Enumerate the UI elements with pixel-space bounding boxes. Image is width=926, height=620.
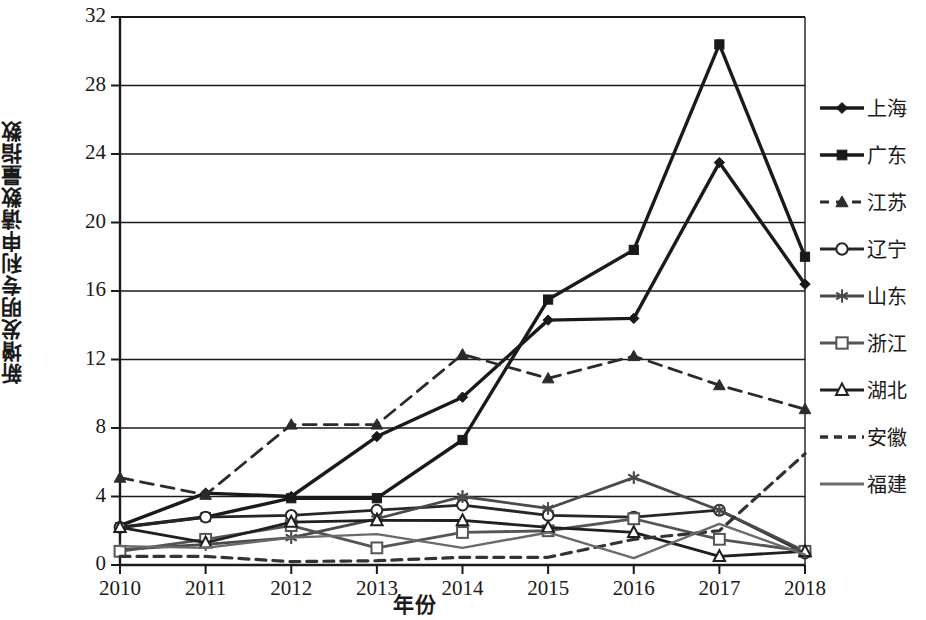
legend-swatch-line-icon	[818, 427, 866, 447]
y-axis-title: 新增发明专利申请数量指数	[2, 120, 36, 384]
legend-item-辽宁[interactable]: 辽宁	[818, 225, 926, 272]
legend-item-上海[interactable]: 上海	[818, 84, 926, 131]
y-tick-label: 4	[62, 483, 106, 508]
legend-item-广东[interactable]: 广东	[818, 131, 926, 178]
x-tick-label: 2011	[161, 576, 251, 601]
x-tick-label: 2017	[674, 576, 764, 601]
data-point-filled-triangle	[457, 349, 469, 359]
y-tick-label: 12	[62, 346, 106, 371]
axis-ticks	[111, 17, 805, 574]
plot-area	[0, 0, 926, 620]
chart-figure: 新增发明专利申请数量指数 年份 048121620242832 20102011…	[0, 0, 926, 620]
data-point-filled-square	[372, 494, 381, 503]
data-point-open-square	[836, 337, 847, 348]
legend-swatch-open-circle-icon	[818, 239, 866, 259]
x-tick-label: 2012	[246, 576, 336, 601]
series-line	[120, 44, 805, 527]
data-point-filled-diamond	[837, 102, 848, 113]
legend-item-福建[interactable]: 福建	[818, 460, 926, 507]
series-2	[114, 349, 811, 500]
data-point-filled-triangle	[628, 350, 640, 360]
series-line	[120, 163, 805, 526]
legend-item-江苏[interactable]: 江苏	[818, 178, 926, 225]
legend-item-山东[interactable]: 山东	[818, 272, 926, 319]
y-tick-label: 28	[62, 72, 106, 97]
y-tick-label: 32	[62, 3, 106, 28]
legend-item-浙江[interactable]: 浙江	[818, 319, 926, 366]
data-point-filled-square	[837, 150, 847, 160]
data-point-filled-square	[715, 40, 724, 49]
legend-label: 安徽	[866, 422, 907, 451]
legend-item-湖北[interactable]: 湖北	[818, 366, 926, 413]
data-point-open-square	[371, 542, 382, 553]
legend-swatch-asterisk-icon	[818, 286, 866, 306]
x-tick-label: 2013	[332, 576, 422, 601]
x-tick-label: 2015	[503, 576, 593, 601]
y-tick-label: 0	[62, 551, 106, 576]
data-point-filled-square	[458, 435, 467, 444]
legend-label: 上海	[866, 93, 907, 122]
data-series-layer	[114, 40, 811, 562]
legend-swatch-open-square-icon	[818, 333, 866, 353]
chart-legend: 上海广东江苏辽宁山东浙江湖北安徽福建	[818, 84, 926, 507]
legend-label: 江苏	[866, 187, 907, 216]
x-tick-label: 2018	[760, 576, 850, 601]
series-line	[120, 354, 805, 494]
legend-item-安徽[interactable]: 安徽	[818, 413, 926, 460]
y-tick-label: 24	[62, 140, 106, 165]
data-point-open-circle	[200, 512, 211, 523]
legend-label: 广东	[866, 140, 907, 169]
legend-label: 福建	[866, 469, 907, 498]
y-tick-label: 20	[62, 209, 106, 234]
data-point-open-square	[457, 527, 468, 538]
legend-label: 辽宁	[866, 234, 907, 263]
legend-swatch-filled-triangle-icon	[818, 192, 866, 212]
legend-swatch-line-icon	[818, 474, 866, 494]
series-0	[115, 157, 810, 530]
y-tick-label: 8	[62, 414, 106, 439]
data-point-filled-square	[544, 295, 553, 304]
data-point-open-square	[714, 534, 725, 545]
x-tick-label: 2016	[589, 576, 679, 601]
data-point-filled-square	[800, 252, 809, 261]
legend-swatch-filled-diamond-icon	[818, 98, 866, 118]
data-point-filled-square	[629, 245, 638, 254]
legend-label: 湖北	[866, 375, 907, 404]
legend-swatch-open-triangle-icon	[818, 380, 866, 400]
data-point-open-circle	[836, 243, 847, 254]
legend-label: 山东	[866, 281, 907, 310]
data-point-filled-triangle	[114, 472, 126, 482]
x-tick-label: 2014	[418, 576, 508, 601]
y-tick-label: 16	[62, 277, 106, 302]
series-1	[115, 40, 809, 532]
legend-label: 浙江	[866, 328, 907, 357]
data-point-open-square	[628, 513, 639, 524]
x-tick-label: 2010	[75, 576, 165, 601]
data-point-filled-square	[287, 494, 296, 503]
legend-swatch-filled-square-icon	[818, 145, 866, 165]
